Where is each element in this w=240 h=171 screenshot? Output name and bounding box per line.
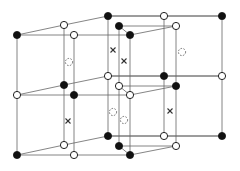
lattice-svg	[0, 0, 240, 171]
open-atom-icon	[126, 91, 133, 98]
filled-atom-icon	[60, 81, 67, 88]
open-atom-icon	[104, 72, 111, 79]
filled-atom-icon	[126, 31, 133, 38]
lattice-edge	[17, 25, 64, 35]
filled-atom-icon	[115, 22, 122, 29]
dashed-site-icon	[109, 108, 116, 115]
open-atom-icon	[60, 141, 67, 148]
open-atom-icon	[160, 132, 167, 139]
open-atom-icon	[218, 72, 225, 79]
open-atom-icon	[13, 91, 20, 98]
dashed-site-icon	[120, 116, 127, 123]
open-atom-icon	[160, 12, 167, 19]
filled-atom-icon	[218, 132, 225, 139]
filled-atom-icon	[126, 151, 133, 158]
lattice-atoms	[13, 12, 225, 158]
dashed-site-icon	[178, 48, 185, 55]
cross-site-icon	[122, 59, 127, 64]
filled-atom-icon	[115, 142, 122, 149]
filled-atom-icon	[104, 12, 111, 19]
filled-atom-icon	[104, 132, 111, 139]
filled-atom-icon	[160, 72, 167, 79]
open-atom-icon	[115, 82, 122, 89]
filled-atom-icon	[172, 82, 179, 89]
open-atom-icon	[60, 21, 67, 28]
filled-atom-icon	[218, 12, 225, 19]
lattice-edge	[17, 145, 64, 155]
open-atom-icon	[70, 151, 77, 158]
filled-atom-icon	[70, 91, 77, 98]
open-atom-icon	[172, 22, 179, 29]
lattice-edge	[17, 85, 64, 95]
filled-atom-icon	[13, 31, 20, 38]
lattice-diagram	[0, 0, 240, 171]
filled-atom-icon	[13, 151, 20, 158]
cross-site-icon	[66, 119, 71, 124]
lattice-edge	[64, 16, 108, 25]
cross-site-icon	[111, 48, 116, 53]
dashed-site-icon	[65, 58, 72, 65]
lattice-edge	[64, 76, 108, 85]
lattice-edge	[130, 146, 176, 155]
cross-site-icon	[168, 109, 173, 114]
lattice-edge	[130, 86, 176, 95]
open-atom-icon	[70, 31, 77, 38]
open-atom-icon	[172, 142, 179, 149]
lattice-edge	[64, 136, 108, 145]
lattice-edge	[130, 26, 176, 35]
